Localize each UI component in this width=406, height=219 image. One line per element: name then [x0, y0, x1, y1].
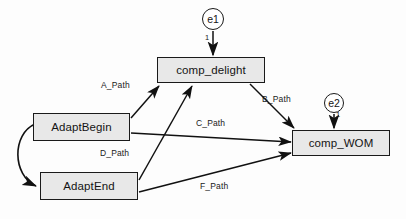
edge-a-path: [131, 86, 159, 118]
fixed-loading-e2: 1: [336, 110, 340, 119]
path-label-c-path: C_Path: [196, 118, 225, 128]
path-label-b-path: B_Path: [262, 94, 291, 104]
error-term-e1-label: e1: [207, 13, 219, 25]
node-comp-wom-label: comp_WOM: [309, 137, 374, 149]
path-label-f-path: F_Path: [200, 181, 228, 191]
path-diagram-canvas: comp_delight comp_WOM AdaptBegin AdaptEn…: [0, 0, 406, 219]
path-label-d-path: D_Path: [100, 148, 129, 158]
node-comp-delight-label: comp_delight: [176, 64, 246, 76]
node-adapt-begin-label: AdaptBegin: [51, 121, 111, 133]
node-comp-delight[interactable]: comp_delight: [157, 57, 265, 83]
path-label-a-path: A_Path: [101, 80, 130, 90]
node-adapt-end-label: AdaptEnd: [63, 180, 114, 192]
edge-c-path: [131, 133, 291, 142]
fixed-loading-e1: 1: [205, 33, 209, 42]
error-term-e1[interactable]: e1: [202, 8, 224, 30]
error-term-e2-label: e2: [328, 97, 340, 109]
node-comp-wom[interactable]: comp_WOM: [292, 130, 390, 156]
node-adapt-begin[interactable]: AdaptBegin: [33, 113, 130, 141]
node-adapt-end[interactable]: AdaptEnd: [40, 172, 138, 200]
edge-b-path: [250, 84, 294, 128]
error-term-e2[interactable]: e2: [324, 93, 344, 113]
